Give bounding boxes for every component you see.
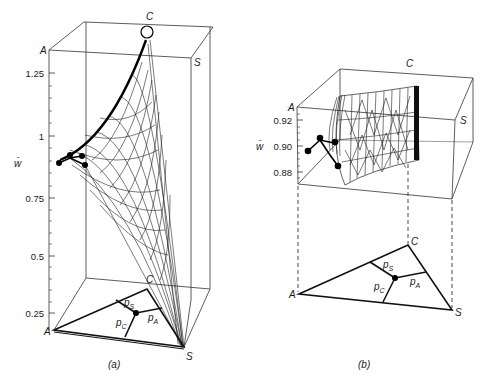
peak-marker xyxy=(141,26,153,38)
panel-b-equilibria xyxy=(305,135,342,170)
region-label-pa: pA xyxy=(147,312,159,325)
tick-label: 0.5 xyxy=(31,251,44,262)
panel-b-surface-mesh xyxy=(329,86,419,185)
figure-canvas: 1.25 1 0.75 0.5 0.25 w̄ A C S xyxy=(0,0,488,384)
vertex-label-a: A xyxy=(43,326,51,337)
panel-a-box xyxy=(49,22,213,347)
tick-label: 0.88 xyxy=(274,167,293,178)
panel-b: 0.92 0.90 0.88 w̄ A C S xyxy=(256,58,473,370)
panel-a-caption: (a) xyxy=(108,359,120,370)
tick-label: 0.90 xyxy=(274,141,293,152)
vertex-label-a: A xyxy=(288,289,296,300)
vertex-label-c-top: C xyxy=(146,11,154,22)
vertex-label-c: C xyxy=(146,274,154,285)
tick-label: 0.75 xyxy=(26,193,45,204)
vertex-label-a-top: A xyxy=(287,102,295,113)
y-axis-label: w̄ xyxy=(256,140,264,152)
panel-b-box xyxy=(297,69,473,199)
tick-label: 0.25 xyxy=(26,308,45,319)
region-label-pc: pC xyxy=(115,317,128,330)
panel-a: 1.25 1 0.75 0.5 0.25 w̄ A C S xyxy=(14,11,213,370)
y-axis-label: w̄ xyxy=(14,157,22,169)
vertex-label-c-top: C xyxy=(406,58,414,69)
panel-a-surface-mesh xyxy=(60,40,184,347)
panel-b-simplex: A C S pS pC pA xyxy=(288,236,462,318)
panel-b-caption: (b) xyxy=(358,359,370,370)
tick-label: 0.92 xyxy=(274,115,293,126)
vertex-label-s: S xyxy=(455,307,462,318)
vertex-label-c: C xyxy=(411,236,419,247)
panel-b-axis: 0.92 0.90 0.88 w̄ xyxy=(256,114,303,178)
tick-label: 1.25 xyxy=(26,68,45,79)
vertex-label-a-top: A xyxy=(39,45,47,56)
region-label-ps: pS xyxy=(123,297,135,310)
region-label-pc: pC xyxy=(373,281,386,294)
vertex-label-s: S xyxy=(186,351,193,362)
tick-label: 1 xyxy=(39,131,44,142)
region-label-pa: pA xyxy=(409,276,421,289)
vertex-label-s-top: S xyxy=(194,57,201,68)
vertex-label-s-top: S xyxy=(460,115,467,126)
